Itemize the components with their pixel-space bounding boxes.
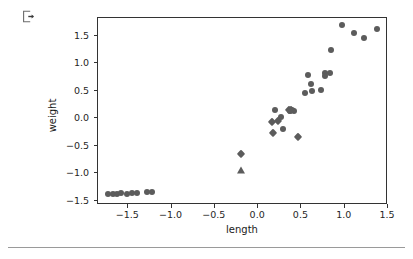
y-tick-label: 1.0 [89,57,104,68]
data-point-circle [308,81,314,87]
x-tick-label: −0.5 [202,209,225,220]
x-tick-label: −1.0 [159,209,182,220]
x-tick-label: 1.5 [379,209,394,220]
data-point-triangle [237,167,245,174]
x-tick-mark [300,204,301,208]
x-tick-mark [257,204,258,208]
x-tick-label: −1.5 [116,209,139,220]
x-tick-mark [387,204,388,208]
x-tick-label: 0.5 [293,209,308,220]
data-point-circle [328,47,334,53]
scatter-chart-figure: −1.5−1.0−0.50.00.51.01.51.51.00.50.0−0.5… [0,0,413,243]
y-tick-label: −1.5 [89,194,112,205]
screenshot-root: −1.5−1.0−0.50.00.51.01.51.51.00.50.0−0.5… [0,0,413,259]
data-point-circle [134,190,140,196]
data-point-circle [305,72,311,78]
data-point-circle [339,22,345,28]
plot-surface [98,18,386,203]
x-tick-mark [344,204,345,208]
y-axis-label: weight [47,99,58,133]
x-tick-mark [214,204,215,208]
data-point-diamond [294,133,303,142]
data-point-circle [149,189,155,195]
y-tick-label: 1.5 [89,29,104,40]
data-point-diamond [237,149,246,158]
data-point-circle [351,30,357,36]
y-tick-label: 0.5 [89,84,104,95]
x-tick-label: 1.0 [336,209,351,220]
data-point-circle [361,35,367,41]
data-point-circle [302,90,308,96]
x-tick-label: 0.0 [250,209,265,220]
x-axis-label: length [97,224,387,235]
x-tick-mark [171,204,172,208]
plot-axes-frame [97,17,387,204]
data-point-circle [272,107,278,113]
y-tick-label: −1.0 [89,167,112,178]
data-point-circle [280,126,286,132]
x-tick-mark [127,204,128,208]
data-point-circle [374,26,380,32]
data-point-circle [309,88,315,94]
data-point-diamond [269,129,278,138]
data-point-circle [318,87,324,93]
y-tick-label: 0.0 [89,112,104,123]
y-tick-label: −0.5 [89,139,112,150]
bottom-divider [8,247,405,248]
data-point-circle [327,70,333,76]
